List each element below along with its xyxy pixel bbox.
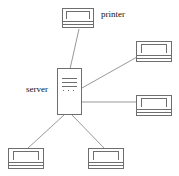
computer-body-divider [137,109,171,110]
computer-body-divider [89,162,123,163]
monitor-screen [13,151,39,160]
workstation-bottom-right-node[interactable] [88,148,124,169]
printer-node[interactable] [62,8,94,28]
server-label: server [26,84,48,94]
edge-server-workstation-bottom-left [27,115,64,149]
printer-paper-tray [66,11,90,19]
edge-server-workstation-bottom-right [72,115,105,149]
server-bay-line-2 [62,82,77,83]
monitor-screen [141,44,167,53]
computer-body-divider [9,162,43,163]
workstation-top-right-node[interactable] [136,41,172,62]
server-bay-line-1 [62,78,77,79]
network-diagram: printer server [0,0,179,176]
printer-label: printer [101,9,125,19]
monitor-screen [93,151,119,160]
computer-base-line [137,112,171,113]
monitor-screen [141,98,167,107]
workstation-bottom-left-node[interactable] [8,148,44,169]
server-led-indicators [63,90,79,93]
server-bay-line-3 [62,86,77,87]
computer-base-line [9,165,43,166]
edge-server-workstation-top-right [82,57,137,88]
printer-base-line [63,24,93,25]
computer-base-line [89,165,123,166]
workstation-right-node[interactable] [136,95,172,116]
server-node[interactable] [57,68,82,115]
printer-body-divider [63,21,93,22]
edge-server-printer [70,29,79,69]
computer-base-line [137,58,171,59]
computer-body-divider [137,55,171,56]
